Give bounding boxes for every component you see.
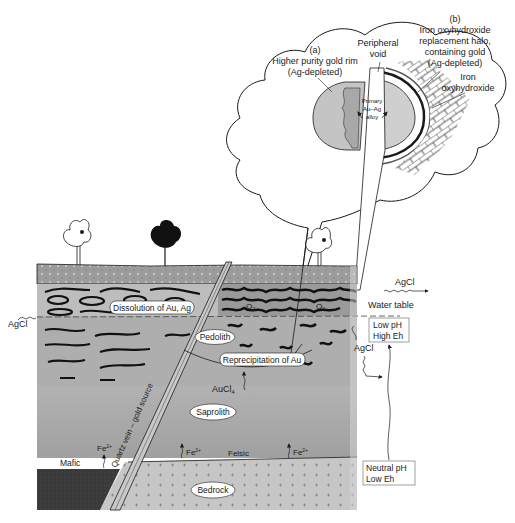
inset-text-a-line2: (Ag-depleted)	[288, 67, 343, 77]
neutral-ph-box: Neutral pH Low Eh	[363, 461, 415, 485]
inset-peripheral-line1: Peripheral	[357, 38, 398, 48]
agcl-right-label: AgCl	[354, 343, 374, 353]
pedolith-label: Pedolith	[195, 330, 235, 345]
inset-callout: (a) Higher purity gold rim (Ag-depleted)…	[227, 14, 506, 290]
bedrock-label: Bedrock	[191, 482, 235, 498]
inset-primary-line1: Primary	[362, 98, 383, 104]
weathering-profile-diagram: (a) Higher purity gold rim (Ag-depleted)…	[0, 0, 515, 523]
aucl4-label: AuCl4	[212, 384, 235, 395]
svg-text:Reprecipitation of Au: Reprecipitation of Au	[223, 355, 302, 365]
svg-text:Neutral pH: Neutral pH	[366, 463, 407, 473]
inset-primary-line2: Au–Ag	[363, 106, 381, 112]
tree-left-icon	[63, 220, 91, 265]
svg-text:Bedrock: Bedrock	[197, 485, 229, 495]
svg-text:Dissolution of Au, Ag: Dissolution of Au, Ag	[113, 303, 191, 313]
inset-iron-line1: Iron	[460, 72, 476, 82]
inset-label-b: (b)	[450, 14, 461, 24]
inset-text-a-line1: Higher purity gold rim	[272, 56, 358, 66]
reprecipitation-label: Reprecipitation of Au	[220, 353, 305, 366]
eh-gradient-arrow-icon	[388, 345, 390, 460]
topsoil-layer	[37, 264, 357, 284]
inset-peripheral-line2: void	[370, 49, 387, 59]
inset-iron-line2: oxyhydroxide	[441, 83, 494, 93]
svg-text:Low Eh: Low Eh	[366, 474, 395, 484]
inset-text-b-line3: containing gold	[425, 47, 486, 57]
svg-text:Saprolith: Saprolith	[196, 407, 230, 417]
svg-text:Pedolith: Pedolith	[200, 332, 231, 342]
inset-text-b-line4: (Ag-depleted)	[428, 58, 483, 68]
tree-middle-icon	[151, 220, 181, 266]
svg-text:Low pH: Low pH	[373, 320, 402, 330]
agcl-top-arrow-icon	[384, 290, 428, 292]
water-table-label: Water table	[368, 300, 414, 310]
inset-label-a: (a)	[310, 45, 321, 55]
agcl-top-label: AgCl	[395, 277, 415, 287]
inset-primary-line3: alloy	[366, 114, 378, 120]
soil-profile	[37, 228, 400, 510]
mafic-label: Mafic	[60, 458, 81, 468]
inset-text-b-line2: replacement halo,	[419, 36, 491, 46]
dissolution-label: Dissolution of Au, Ag	[110, 301, 194, 314]
felsic-label: Felsic	[228, 449, 249, 458]
inset-text-b-line1: Iron oxyhydroxide	[419, 25, 490, 35]
agcl-left-label: AgCl	[8, 319, 28, 329]
low-ph-box: Low pH High Eh	[369, 318, 409, 342]
svg-text:High Eh: High Eh	[373, 331, 404, 341]
saprolith-label: Saprolith	[190, 404, 236, 420]
